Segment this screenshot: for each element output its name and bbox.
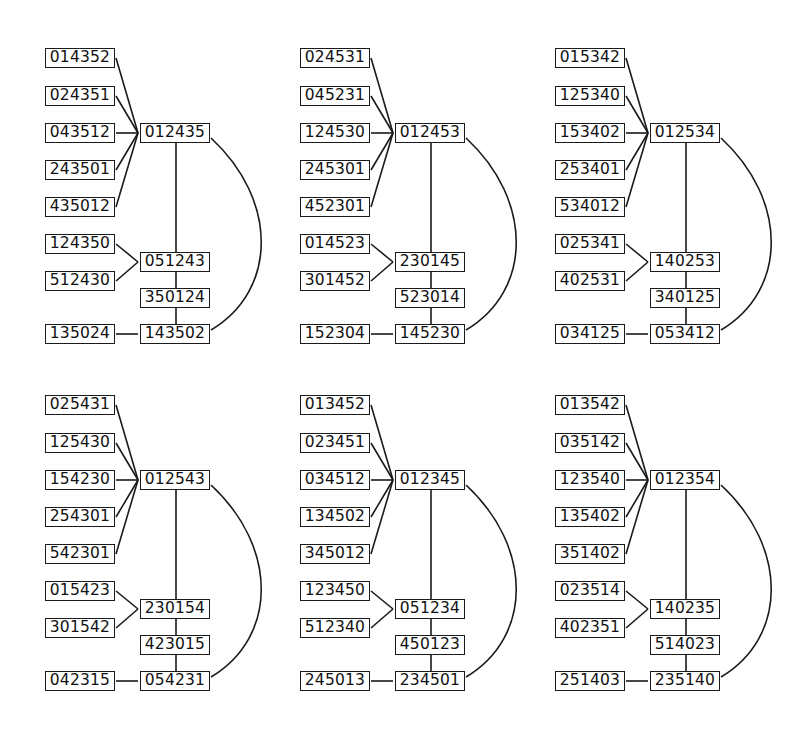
edge [371,591,393,609]
mid-leaf-node: 512340 [300,618,370,638]
bottom-leaf-node: 245013 [300,671,370,691]
hub-node: 012453 [395,123,465,143]
edge [116,96,138,133]
mid-node: 051243 [140,252,210,272]
hub-leaf-node: 153402 [555,123,625,143]
edge [116,609,138,628]
hub-node: 012345 [395,470,465,490]
bottom-node: 145230 [395,324,465,344]
hub-leaf-node: 043512 [45,123,115,143]
edges [28,377,278,707]
mid-leaf-node: 123450 [300,581,370,601]
edge [371,96,393,133]
edge-arc [721,485,771,677]
edge [626,133,648,170]
hub-leaf-node: 013542 [555,395,625,415]
edge [116,480,138,554]
hub-leaf-node: 253401 [555,160,625,180]
hub-leaf-node: 125430 [45,433,115,453]
edge [371,609,393,628]
hub-leaf-node: 014352 [45,48,115,68]
hub-leaf-node: 134502 [300,507,370,527]
bottom-node: 054231 [140,671,210,691]
hub-leaf-node: 135402 [555,507,625,527]
bottom-leaf-node: 251403 [555,671,625,691]
hub-leaf-node: 024531 [300,48,370,68]
edge [371,244,393,262]
hub-node: 012435 [140,123,210,143]
hub-node: 012543 [140,470,210,490]
bottom-leaf-node: 034125 [555,324,625,344]
mid-leaf-node: 023514 [555,581,625,601]
hub-leaf-node: 024351 [45,86,115,106]
edges [538,377,788,707]
edge [116,443,138,480]
edge [116,133,138,207]
mid-leaf-node: 124350 [45,234,115,254]
edge [626,58,648,133]
edges [283,30,533,360]
edge-arc [211,138,261,330]
hub-leaf-node: 045231 [300,86,370,106]
edge [116,58,138,133]
edges [283,377,533,707]
mid-leaf-node: 402351 [555,618,625,638]
bottom-node: 053412 [650,324,720,344]
edge [371,58,393,133]
bottom-leaf-node: 042315 [45,671,115,691]
edge [626,405,648,480]
edge [116,244,138,262]
hub-node: 012534 [650,123,720,143]
edge-arc [466,138,516,330]
hub-leaf-node: 125340 [555,86,625,106]
hub-leaf-node: 154230 [45,470,115,490]
edge [626,96,648,133]
edge [626,262,648,281]
tree-diagram-1: 014352 024351 043512 243501 435012 01243… [28,30,278,360]
bottom-leaf-node: 135024 [45,324,115,344]
chain-node: 514023 [650,635,720,655]
edge [371,480,393,554]
mid-node: 230145 [395,252,465,272]
edge [626,133,648,207]
bottom-node: 235140 [650,671,720,691]
bottom-node: 143502 [140,324,210,344]
mid-leaf-node: 301452 [300,271,370,291]
hub-leaf-node: 243501 [45,160,115,180]
edge [371,405,393,480]
chain-node: 340125 [650,288,720,308]
mid-node: 140253 [650,252,720,272]
edge [371,133,393,170]
hub-leaf-node: 542301 [45,544,115,564]
edge [116,133,138,170]
edge [626,480,648,517]
chain-node: 423015 [140,635,210,655]
tree-diagram-5: 013452 023451 034512 134502 345012 01234… [283,377,533,707]
edge [626,591,648,609]
edge-arc [211,485,261,677]
edge [371,480,393,517]
edge [371,443,393,480]
hub-leaf-node: 035142 [555,433,625,453]
edge [116,262,138,281]
hub-leaf-node: 435012 [45,197,115,217]
hub-leaf-node: 124530 [300,123,370,143]
chain-node: 350124 [140,288,210,308]
bottom-leaf-node: 152304 [300,324,370,344]
tree-diagram-2: 024531 045231 124530 245301 452301 01245… [283,30,533,360]
mid-leaf-node: 014523 [300,234,370,254]
edge [626,480,648,554]
edge [116,591,138,609]
chain-node: 450123 [395,635,465,655]
chain-node: 523014 [395,288,465,308]
hub-leaf-node: 254301 [45,507,115,527]
edge [371,262,393,281]
mid-leaf-node: 402531 [555,271,625,291]
tree-diagram-6: 013542 035142 123540 135402 351402 01235… [538,377,788,707]
hub-leaf-node: 534012 [555,197,625,217]
hub-leaf-node: 452301 [300,197,370,217]
edge [626,609,648,628]
edge [116,405,138,480]
mid-node: 051234 [395,599,465,619]
hub-leaf-node: 025431 [45,395,115,415]
